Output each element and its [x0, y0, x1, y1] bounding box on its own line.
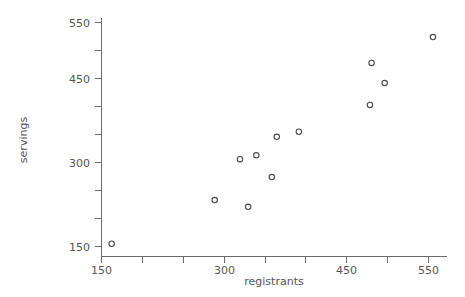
- scatter-plot: 150300450550 150300450550 registrants se…: [0, 0, 465, 297]
- data-point: [367, 102, 372, 107]
- data-point: [212, 197, 217, 202]
- data-point: [296, 129, 301, 134]
- y-tick-label-300: 300: [69, 157, 90, 170]
- data-point: [245, 204, 250, 209]
- y-tick-label-450: 450: [69, 73, 90, 86]
- data-point: [430, 34, 435, 39]
- data-point: [269, 174, 274, 179]
- chart-canvas: 150300450550 150300450550 registrants se…: [0, 0, 465, 297]
- data-point-group: [109, 34, 436, 246]
- x-axis-title: registrants: [244, 275, 304, 288]
- y-axis-tick-labels: 150300450550: [69, 17, 90, 254]
- x-axis-ticks: [102, 257, 429, 264]
- y-axis-title: servings: [17, 117, 30, 164]
- data-point: [254, 153, 259, 158]
- data-point: [237, 157, 242, 162]
- y-axis-ticks: [95, 23, 102, 247]
- y-tick-label-550: 550: [69, 17, 90, 30]
- x-tick-label-550: 550: [418, 264, 439, 277]
- x-tick-label-450: 450: [336, 264, 357, 277]
- data-point: [369, 60, 374, 65]
- x-tick-label-300: 300: [214, 264, 235, 277]
- data-point: [382, 80, 387, 85]
- data-point: [109, 241, 114, 246]
- y-tick-label-150: 150: [69, 241, 90, 254]
- data-point: [274, 134, 279, 139]
- x-tick-label-150: 150: [91, 264, 112, 277]
